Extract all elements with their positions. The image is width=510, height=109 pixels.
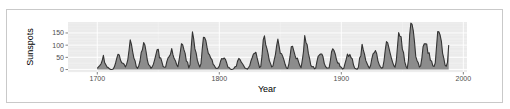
x-tick-label: 1800 — [212, 75, 228, 82]
y-tick-label: 0 — [60, 66, 64, 73]
y-tick-label: 50 — [56, 54, 64, 61]
x-axis-ticks: 1700180019002000 — [89, 72, 471, 82]
y-axis-title: Sunspots — [25, 28, 35, 66]
x-tick-label: 1700 — [89, 75, 105, 82]
x-tick-label: 1900 — [334, 75, 350, 82]
y-axis-ticks: 050100150 — [52, 29, 68, 73]
x-axis-title: Year — [258, 84, 276, 94]
y-tick-label: 100 — [52, 42, 64, 49]
x-tick-label: 2000 — [456, 75, 472, 82]
sunspots-area-chart: 050100150 1700180019002000 Year Sunspots — [0, 0, 510, 109]
y-tick-label: 150 — [52, 29, 64, 36]
